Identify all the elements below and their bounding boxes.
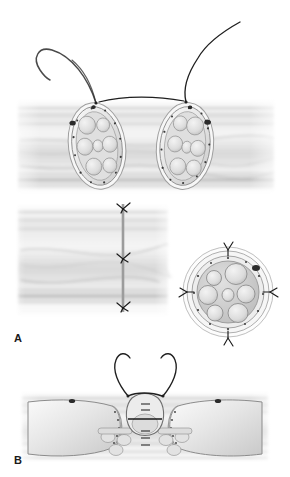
fascicle-bundle-right [158,428,192,434]
vessel-mark-panelb-right [215,399,221,403]
fascicle-bundle-left [98,428,132,434]
panel-a-coapted-scene [0,200,180,320]
tissue-edge-fade [0,96,290,196]
vessel-mark-panelb-left [69,399,75,403]
panel-label-b: B [14,454,22,466]
panel-label-a: A [14,332,22,344]
tissue-edge-fade-middle [0,200,180,320]
nerve-repair-figure [0,0,290,477]
vessel-mark-cross-section [252,265,260,271]
